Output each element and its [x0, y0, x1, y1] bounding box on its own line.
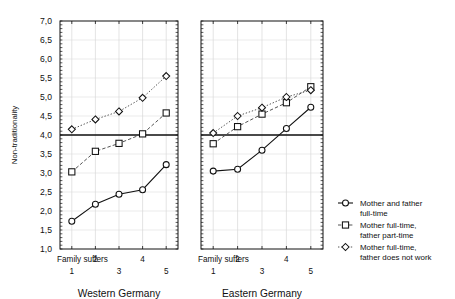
- y-axis-label-group: Non-traditionality: [10, 106, 19, 165]
- legend-label-line2: father part-time: [360, 231, 414, 240]
- x-tick-label: 5: [309, 267, 314, 276]
- legend-item-square: Mother full-time,father part-time: [338, 221, 417, 240]
- y-tick-label: 2,5: [40, 187, 52, 197]
- x-tick-label: 5: [164, 267, 169, 276]
- data-point-square: [259, 111, 265, 117]
- panels-group: 12345Family suffersWestern Germany12345F…: [57, 21, 323, 299]
- data-point-square: [163, 110, 169, 116]
- panel-eastern-germany: 12345Family suffersEastern Germany: [198, 21, 323, 299]
- y-tick-label: 3,0: [40, 168, 52, 178]
- data-point-diamond: [92, 116, 99, 123]
- panel-title: Eastern Germany: [222, 288, 303, 299]
- chart-svg: Non-traditionality 7,06,56,05,55,04,54,0…: [0, 0, 455, 299]
- x-axis-caption: Family suffers: [198, 255, 249, 264]
- data-point-square: [235, 124, 241, 130]
- data-point-circle: [163, 162, 169, 168]
- y-axis-tick-labels: 7,06,56,05,55,04,54,03,53,02,52,01,51,0: [40, 16, 52, 254]
- legend-marker-square: [342, 222, 348, 228]
- y-tick-label: 5,0: [40, 92, 52, 102]
- legend-label-line1: Mother and father: [360, 199, 423, 208]
- data-point-square: [116, 140, 122, 146]
- data-point-circle: [235, 166, 241, 172]
- data-point-circle: [210, 168, 216, 174]
- x-axis-caption: Family suffers: [57, 255, 108, 264]
- chart-legend: Mother and fatherfull-timeMother full-ti…: [338, 199, 432, 262]
- data-point-diamond: [259, 104, 266, 111]
- x-tick-label: 1: [70, 267, 75, 276]
- legend-label-line2: father does not work: [360, 253, 432, 262]
- y-tick-label: 1,5: [40, 225, 52, 235]
- chart-figure: Non-traditionality 7,06,56,05,55,04,54,0…: [0, 0, 455, 299]
- y-tick-label: 6,5: [40, 35, 52, 45]
- data-point-diamond: [116, 108, 123, 115]
- x-tick-label: 1: [211, 267, 216, 276]
- legend-marker-circle: [343, 200, 349, 206]
- data-point-circle: [140, 187, 146, 193]
- data-point-circle: [69, 218, 75, 224]
- x-tick-label: 3: [117, 267, 122, 276]
- legend-item-circle: Mother and fatherfull-time: [338, 199, 423, 218]
- data-point-circle: [116, 191, 122, 197]
- legend-label-line1: Mother full-time,: [360, 221, 417, 230]
- data-point-diamond: [234, 113, 241, 120]
- data-point-circle: [259, 147, 265, 153]
- data-point-circle: [308, 104, 314, 110]
- y-tick-label: 7,0: [40, 16, 52, 26]
- legend-marker-diamond: [342, 244, 349, 251]
- y-axis-label: Non-traditionality: [10, 106, 19, 165]
- x-tick-label: 4: [284, 255, 289, 264]
- data-point-circle: [92, 201, 98, 207]
- data-point-diamond: [68, 126, 75, 133]
- y-tick-label: 3,5: [40, 149, 52, 159]
- data-point-square: [92, 148, 98, 154]
- panel-western-germany: 12345Family suffersWestern Germany: [57, 21, 178, 299]
- legend-item-diamond: Mother full-time,father does not work: [338, 243, 432, 262]
- y-tick-label: 5,5: [40, 73, 52, 83]
- legend-label-line1: Mother full-time,: [360, 243, 417, 252]
- y-tick-label: 4,0: [40, 130, 52, 140]
- y-tick-label: 6,0: [40, 54, 52, 64]
- data-point-square: [210, 141, 216, 147]
- y-tick-label: 1,0: [40, 244, 52, 254]
- y-tick-label: 4,5: [40, 111, 52, 121]
- data-point-square: [69, 169, 75, 175]
- data-point-square: [140, 131, 146, 137]
- x-tick-label: 3: [260, 267, 265, 276]
- x-tick-label: 4: [140, 255, 145, 264]
- panel-title: Western Germany: [78, 288, 161, 299]
- legend-label-line2: full-time: [360, 209, 388, 218]
- y-tick-label: 2,0: [40, 206, 52, 216]
- data-point-circle: [283, 126, 289, 132]
